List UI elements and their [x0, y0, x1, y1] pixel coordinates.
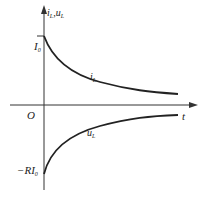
y-axis-label: iL,uL	[47, 7, 65, 19]
origin-label: O	[27, 109, 35, 121]
neg-ri0-label: −RI0	[17, 164, 38, 177]
current-curve-label: iL	[90, 71, 97, 83]
current-curve	[44, 36, 178, 94]
voltage-curve	[44, 115, 178, 174]
x-axis-label: t	[182, 110, 186, 122]
voltage-curve-label: uL	[87, 127, 96, 139]
i0-label: I0	[33, 40, 41, 53]
x-axis-arrow-icon	[189, 102, 198, 108]
rl-transient-diagram: iL,uL t O I0 −RI0 iL uL	[0, 0, 212, 203]
